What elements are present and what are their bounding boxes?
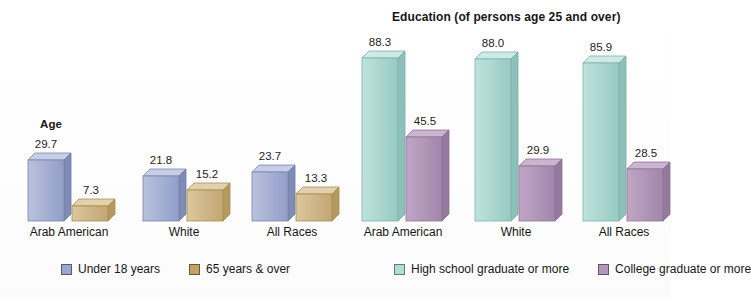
value-label: 15.2 bbox=[196, 168, 218, 180]
edu-group-arab-american: 88.3 45.5 Arab American bbox=[362, 36, 449, 239]
value-label: 13.3 bbox=[305, 172, 327, 184]
age-chart: 29.7 7.3 Arab American 21.8 bbox=[0, 108, 340, 248]
education-chart-svg: 88.3 45.5 Arab American 88.0 bbox=[330, 0, 670, 248]
edu-group-white: 88.0 29.9 White bbox=[475, 37, 562, 239]
edu-group-all-races: 85.9 28.5 All Races bbox=[583, 41, 670, 239]
legend-label-under-18-years: Under 18 years bbox=[78, 263, 160, 275]
value-label: 28.5 bbox=[635, 147, 657, 159]
bar-highschool-all-races bbox=[583, 56, 626, 221]
legend-item-65-years-over[interactable]: 65 years & over bbox=[189, 263, 290, 275]
age-group-white: 21.8 15.2 White bbox=[143, 154, 230, 239]
legend-item-college-graduate-or-more[interactable]: College graduate or more bbox=[598, 263, 751, 275]
value-label: 45.5 bbox=[414, 115, 436, 127]
chart-legend: Under 18 years 65 years & over High scho… bbox=[0, 254, 670, 284]
value-label: 23.7 bbox=[259, 150, 281, 162]
legend-item-under-18-years[interactable]: Under 18 years bbox=[61, 263, 160, 275]
category-label-arab-american: Arab American bbox=[364, 225, 443, 239]
bar-college-arab-american bbox=[406, 130, 449, 221]
bar-college-white bbox=[519, 159, 562, 221]
legend-label-65-years-over: 65 years & over bbox=[206, 263, 290, 275]
bar-college-all-races bbox=[627, 162, 670, 221]
bar-highschool-white bbox=[475, 52, 518, 221]
legend-swatch-college-graduate-or-more bbox=[598, 264, 609, 275]
value-label: 85.9 bbox=[590, 41, 612, 53]
legend-swatch-under-18-years bbox=[61, 264, 72, 275]
category-label-white: White bbox=[169, 225, 200, 239]
value-label: 7.3 bbox=[83, 184, 99, 196]
legend-education: High school graduate or more College gra… bbox=[394, 254, 751, 284]
value-label: 21.8 bbox=[150, 154, 172, 166]
value-label: 29.7 bbox=[35, 138, 57, 150]
category-label-white: White bbox=[501, 225, 532, 239]
legend-label-college-graduate-or-more: College graduate or more bbox=[615, 263, 751, 275]
bar-under18-white bbox=[143, 169, 186, 221]
bar-under18-arab-american bbox=[28, 153, 71, 221]
category-label-all-races: All Races bbox=[599, 225, 650, 239]
age-group-arab-american: 29.7 7.3 Arab American bbox=[28, 138, 115, 239]
category-label-arab-american: Arab American bbox=[30, 225, 109, 239]
value-label: 29.9 bbox=[527, 144, 549, 156]
bar-65over-white bbox=[187, 183, 230, 221]
legend-swatch-65-years-over bbox=[189, 264, 200, 275]
bar-65over-arab-american bbox=[72, 199, 115, 221]
age-chart-svg: 29.7 7.3 Arab American 21.8 bbox=[0, 108, 340, 248]
legend-item-high-school-graduate-or-more[interactable]: High school graduate or more bbox=[394, 263, 569, 275]
value-label: 88.3 bbox=[369, 36, 391, 48]
legend-label-high-school-graduate-or-more: High school graduate or more bbox=[411, 263, 569, 275]
bar-under18-all-races bbox=[252, 165, 295, 221]
age-group-all-races: 23.7 13.3 All Races bbox=[252, 150, 339, 239]
legend-age: Under 18 years 65 years & over bbox=[61, 254, 290, 284]
bar-highschool-arab-american bbox=[362, 51, 405, 221]
education-chart: 88.3 45.5 Arab American 88.0 bbox=[330, 0, 670, 248]
value-label: 88.0 bbox=[482, 37, 504, 49]
legend-swatch-high-school-graduate-or-more bbox=[394, 264, 405, 275]
category-label-all-races: All Races bbox=[267, 225, 318, 239]
